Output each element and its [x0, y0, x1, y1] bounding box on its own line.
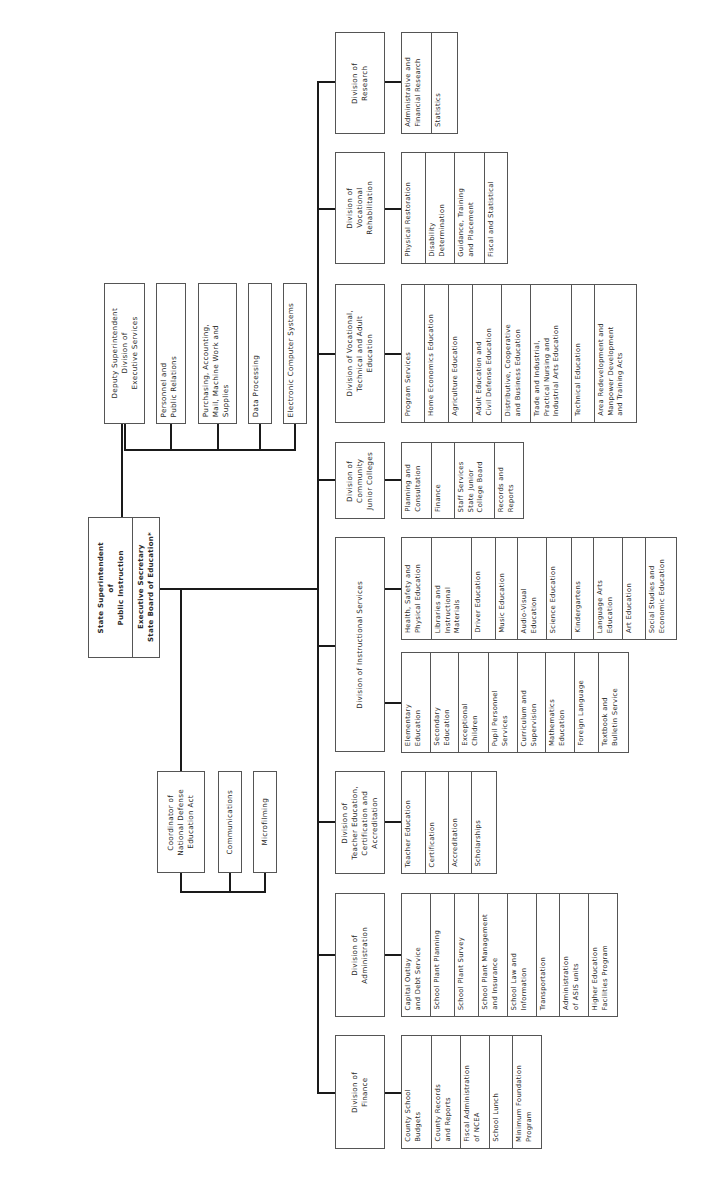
list-item: Adult Education and Civil Defense Educat…: [473, 285, 502, 422]
teacher-ed-units-list: Teacher Education Certification Accredit…: [401, 771, 497, 874]
unit-label: Finance: [434, 484, 444, 512]
stub-teacher-ed: [318, 821, 335, 823]
list-item: School Plant Management and Insurance: [479, 894, 508, 1016]
unit-label: Kindergartens: [574, 581, 584, 633]
communications-box: Communications: [218, 771, 242, 873]
unit-label: Secondary Education: [433, 707, 452, 746]
deputy-superintendent-label: Deputy Superintendent Division of Execut…: [110, 308, 140, 399]
unit-label: Guidance, Training and Placement: [457, 188, 476, 257]
unit-label: Elementary Education: [404, 704, 423, 746]
unit-label: Distributive, Cooperative and Business E…: [504, 324, 523, 417]
stub-community-jc: [318, 479, 335, 481]
list-item: School Plant Survey: [455, 894, 479, 1016]
division-community-jc-label: Division of Community Junior Colleges: [345, 452, 375, 510]
root-to-coordinator-line: [180, 588, 182, 771]
list-item: Art Education: [623, 538, 646, 639]
personnel-drop: [170, 424, 172, 450]
unit-label: Language Arts Education: [596, 580, 615, 633]
unit-label: Administrative and Financial Research: [404, 57, 423, 127]
list-item: Kindergartens: [572, 538, 594, 639]
stub-finance: [318, 1092, 335, 1094]
list-item: Textbook and Bulletin Service: [599, 653, 628, 752]
deputy-drop: [124, 424, 126, 450]
list-item: Administration of ASIS units: [560, 894, 589, 1016]
unit-label: Trade and Industrial, Practical Nursing …: [533, 325, 562, 416]
unit-label: Fiscal Administration of NCEA: [463, 1065, 482, 1142]
research-units-line: [385, 81, 401, 83]
list-item: Minimum Foundation Program: [513, 1036, 541, 1148]
list-item: Pupil Personnel Services: [489, 653, 518, 752]
purchasing-box: Purchasing, Accounting, Mail, Machine Wo…: [198, 283, 237, 424]
list-item: County School Budgets: [402, 1036, 432, 1148]
division-voc-rehab-label: Division of Vocational Rehabilitation: [345, 181, 375, 235]
list-item: Libraries and Instructional Materials: [432, 538, 472, 639]
unit-label: Capital Outlay and Debt Service: [404, 947, 423, 1010]
microfilming-box: Microfilming: [253, 771, 277, 873]
list-item: Distributive, Cooperative and Business E…: [502, 285, 531, 422]
list-item: Agriculture Education: [449, 285, 473, 422]
deputy-superintendent-box: Deputy Superintendent Division of Execut…: [104, 283, 145, 424]
finance-units-line: [385, 1092, 401, 1094]
division-voc-tech-label: Division of Vocational, Technical and Ad…: [345, 310, 375, 396]
deputy-units-bar: [124, 449, 296, 451]
unit-label: School Plant Planning: [433, 930, 443, 1010]
unit-label: Health, Safety and Physical Education: [404, 564, 423, 633]
stub-voc-rehab: [318, 208, 335, 210]
finance-units-list: County School Budgets County Records and…: [401, 1035, 542, 1149]
unit-label: Foreign Language: [577, 680, 587, 746]
administration-units-list: Capital Outlay and Debt Service School P…: [401, 893, 618, 1017]
microfilming-drop: [264, 873, 266, 892]
list-item: Mathematics Education: [546, 653, 575, 752]
list-item: Administrative and Financial Research: [402, 33, 432, 133]
unit-label: School Lunch: [492, 1093, 502, 1142]
voc-tech-units-list: Program Services Home Economics Educatio…: [401, 284, 637, 423]
unit-label: Administration of ASIS units: [562, 956, 581, 1010]
list-item: Science Education: [547, 538, 572, 639]
list-item: Finance: [432, 443, 455, 518]
administration-units-line: [385, 954, 401, 956]
list-item: Fiscal Administration of NCEA: [461, 1036, 490, 1148]
purchasing-label: Purchasing, Accounting, Mail, Machine Wo…: [201, 324, 231, 417]
coordinator-ndea-label: Coordinator of National Defense Educatio…: [166, 789, 196, 856]
list-item: Capital Outlay and Debt Service: [402, 894, 431, 1016]
list-item: Scholarships: [472, 772, 496, 873]
list-item: Music Education: [496, 538, 518, 639]
coordinator-drop: [180, 873, 182, 892]
list-item: Statistics: [432, 33, 457, 133]
division-finance-box: Division of Finance: [335, 1035, 385, 1149]
computer-systems-box: Electronic Computer Systems: [283, 283, 307, 424]
list-item: Health, Safety and Physical Education: [402, 538, 432, 639]
division-voc-rehab-box: Division of Vocational Rehabilitation: [335, 152, 385, 264]
list-item: Records and Reports: [495, 443, 523, 518]
division-community-jc-box: Division of Community Junior Colleges: [335, 442, 385, 519]
stub-voc-tech: [318, 353, 335, 355]
unit-label: Agriculture Education: [451, 336, 461, 416]
coordinator-units-bar: [180, 891, 266, 893]
list-item: Audio-Visual Education: [518, 538, 547, 639]
unit-label: Records and Reports: [497, 467, 516, 512]
list-item: Curriculum and Supervision: [518, 653, 546, 752]
unit-label: Area Redevelopment and Manpower Developm…: [597, 323, 626, 416]
list-item: Fiscal and Statistical: [485, 153, 507, 263]
computer-systems-label: Electronic Computer Systems: [286, 303, 296, 417]
unit-label: Pupil Personnel Services: [491, 690, 510, 746]
unit-label: Certification: [428, 822, 438, 867]
root-box: State Superintendent of Public Instructi…: [88, 517, 160, 658]
list-item: Home Economics Education: [425, 285, 449, 422]
unit-label: Driver Education: [474, 571, 484, 633]
division-instructional-box: Division of Instructional Services: [335, 537, 385, 752]
instructional-units-list-b: Elementary Education Secondary Education…: [401, 652, 629, 753]
list-item: Secondary Education: [431, 653, 459, 752]
list-item: Exceptional Children: [459, 653, 489, 752]
unit-label: Art Education: [625, 583, 635, 633]
unit-label: Program Services: [404, 352, 414, 416]
unit-label: School Law and Information: [510, 953, 529, 1010]
list-item: Transportation: [537, 894, 560, 1016]
unit-label: Teacher Education: [404, 800, 414, 867]
purchasing-drop: [217, 424, 219, 450]
division-research-box: Division of Research: [335, 32, 385, 134]
division-teacher-ed-box: Division of Teacher Education, Certifica…: [335, 771, 385, 874]
list-item: Elementary Education: [402, 653, 431, 752]
division-administration-box: Division of Administration: [335, 893, 385, 1017]
stub-instructional: [318, 645, 335, 647]
